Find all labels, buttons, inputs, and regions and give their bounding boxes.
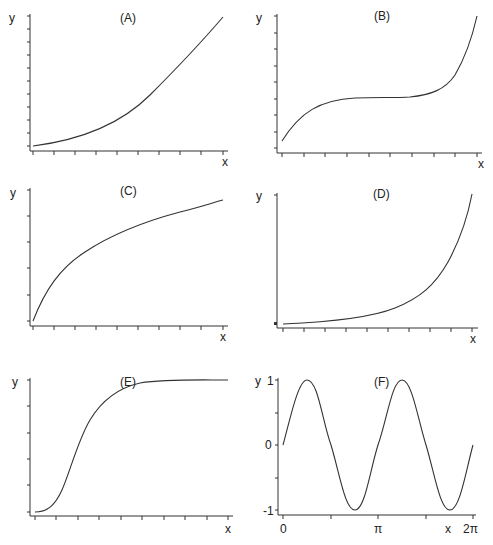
x-axis-label: x <box>478 157 484 171</box>
x-tick-label-2pi: 2π <box>463 522 478 536</box>
panel-c: y (C) x <box>10 184 228 344</box>
x-axis-label: x <box>470 332 476 346</box>
curve-d <box>283 194 472 324</box>
x-axis-label: x <box>225 522 231 536</box>
x-tick-label-0: 0 <box>280 522 287 536</box>
x-ticks <box>283 515 473 519</box>
y-axis-label: y <box>255 374 261 388</box>
y-axis-label: y <box>256 189 262 203</box>
panel-title-b: (B) <box>374 9 390 23</box>
x-axis-label: x <box>222 155 228 169</box>
panel-title-d: (D) <box>373 187 390 201</box>
x-ticks <box>283 328 472 332</box>
x-ticks <box>282 153 477 157</box>
y-tick-label-minus1: -1 <box>263 504 274 518</box>
panel-title-c: (C) <box>120 184 137 198</box>
curve-e <box>35 380 228 512</box>
panel-f: y (F) 1 0 -1 0 π x 2π <box>255 374 478 536</box>
y-tick-label-1: 1 <box>267 374 274 388</box>
x-ticks <box>33 151 223 155</box>
y-axis-label: y <box>12 375 18 389</box>
panel-a: y (A) x <box>9 11 228 169</box>
curve-a <box>33 17 223 146</box>
origin-marker <box>274 322 277 325</box>
x-ticks <box>33 326 223 330</box>
y-tick-label-0: 0 <box>265 438 272 452</box>
panel-e: y (E) x <box>12 375 233 536</box>
panel-title-f: (F) <box>374 375 389 389</box>
figure-grid: y (A) x y (B) <box>0 0 493 545</box>
x-ticks <box>35 516 228 520</box>
x-tick-label-pi: π <box>374 522 382 536</box>
y-axis-label: y <box>9 11 15 25</box>
y-axis-label: y <box>10 186 16 200</box>
x-axis-label: x <box>445 522 451 536</box>
panel-title-a: (A) <box>120 11 136 25</box>
y-axis-label: y <box>256 11 262 25</box>
panel-d: y (D) x <box>256 187 478 346</box>
curve-f <box>283 380 473 510</box>
curve-b <box>282 16 477 141</box>
curve-c <box>33 200 223 321</box>
x-axis-label: x <box>220 330 226 344</box>
panel-b: y (B) x <box>256 9 484 171</box>
